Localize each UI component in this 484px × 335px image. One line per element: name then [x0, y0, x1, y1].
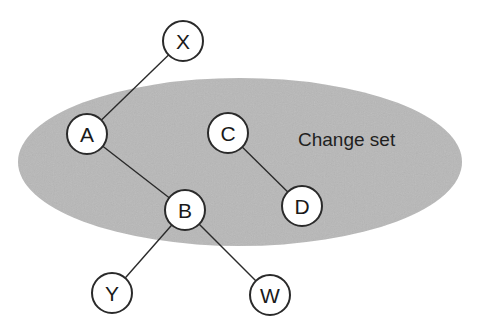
node-label: B	[178, 199, 192, 222]
node-label: Y	[105, 282, 119, 305]
node-d: D	[282, 186, 322, 226]
node-label: A	[80, 123, 94, 146]
change-set-region	[18, 78, 462, 246]
node-c: C	[208, 113, 248, 153]
node-y: Y	[92, 273, 132, 313]
node-label: W	[260, 284, 280, 307]
node-label: C	[220, 122, 235, 145]
node-b: B	[165, 190, 205, 230]
change-set-label: Change set	[298, 129, 396, 150]
node-x: X	[163, 21, 203, 61]
node-a: A	[67, 114, 107, 154]
node-label: D	[294, 195, 309, 218]
node-label: X	[176, 30, 190, 53]
change-set-diagram: XACBDYW Change set	[0, 0, 484, 335]
node-w: W	[250, 275, 290, 315]
